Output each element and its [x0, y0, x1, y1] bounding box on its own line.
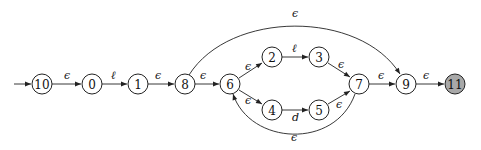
- edge-8-9-curve: ϵ: [189, 7, 400, 75]
- state-10: 10: [32, 74, 52, 94]
- edge-2-3: ℓ: [282, 42, 308, 57]
- edge-7-9: ϵ: [369, 69, 395, 84]
- edge-4-5: d: [282, 110, 308, 124]
- state-2: 2: [262, 47, 282, 67]
- nfa-diagram: ϵ ℓ ϵ ϵ ϵ ℓ ϵ ϵ d ϵ ϵ ϵ: [0, 0, 481, 150]
- edge-label: ϵ: [245, 94, 251, 107]
- state-label: 0: [88, 78, 96, 92]
- edge-label: ϵ: [155, 69, 161, 82]
- edge-6-2: ϵ: [239, 60, 262, 78]
- edge-3-7: ϵ: [328, 58, 350, 77]
- edge-8-6: ϵ: [195, 69, 219, 84]
- state-label: 1: [134, 78, 142, 92]
- state-label: 9: [402, 78, 410, 92]
- state-0: 0: [82, 74, 102, 94]
- edge-label: ℓ: [292, 42, 297, 55]
- state-label: 4: [268, 104, 276, 118]
- state-8: 8: [175, 74, 195, 94]
- state-9: 9: [396, 74, 416, 94]
- edge-label: ϵ: [338, 58, 344, 71]
- edge-label: ϵ: [292, 7, 298, 20]
- edge-label: ϵ: [378, 69, 384, 82]
- edge-label: ϵ: [291, 131, 297, 144]
- state-label: 11: [447, 78, 462, 92]
- edge-10-0: ϵ: [52, 69, 81, 84]
- state-label: 7: [355, 78, 363, 92]
- state-label: 6: [226, 78, 234, 92]
- state-label: 5: [315, 104, 323, 118]
- state-label: 10: [34, 78, 49, 92]
- edge-6-4: ϵ: [239, 90, 262, 107]
- edge-label: ϵ: [336, 98, 342, 111]
- state-7: 7: [349, 74, 369, 94]
- edge-9-11: ϵ: [416, 69, 444, 84]
- state-label: 2: [268, 51, 276, 65]
- state-4: 4: [262, 100, 282, 120]
- edge-0-1: ℓ: [102, 69, 127, 84]
- edge-5-7: ϵ: [328, 91, 350, 111]
- state-3: 3: [309, 47, 329, 67]
- state-1: 1: [128, 74, 148, 94]
- state-label: 8: [181, 78, 189, 92]
- edge-label: ϵ: [245, 60, 251, 73]
- edge-label: ϵ: [200, 69, 206, 82]
- state-11-accept: 11: [445, 74, 465, 94]
- edge-label: d: [292, 111, 299, 124]
- state-6: 6: [220, 74, 240, 94]
- edge-1-8: ϵ: [148, 69, 174, 84]
- edge-label: ϵ: [423, 69, 429, 82]
- state-5: 5: [309, 100, 329, 120]
- edge-label: ϵ: [64, 69, 70, 82]
- edge-label: ℓ: [111, 69, 116, 82]
- state-label: 3: [315, 51, 323, 65]
